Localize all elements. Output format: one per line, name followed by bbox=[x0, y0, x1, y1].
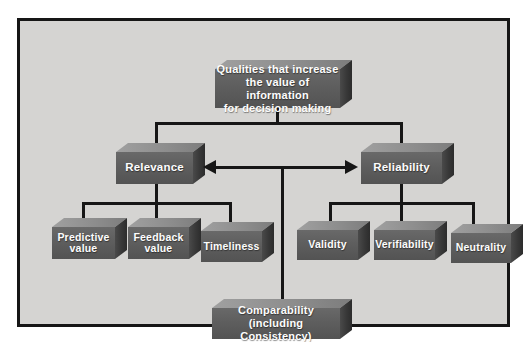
diagram-frame: Qualities that increase the value of inf… bbox=[17, 18, 510, 327]
node-root-label: Qualities that increase the value of inf… bbox=[215, 69, 340, 108]
box-top-face bbox=[374, 221, 447, 230]
node-comparability-label: Comparability (including Consistency) bbox=[212, 308, 340, 339]
box-top-face bbox=[128, 218, 201, 227]
box-top-face bbox=[201, 222, 274, 231]
box-top-face bbox=[116, 143, 205, 152]
box-top-face bbox=[451, 224, 523, 233]
page: Qualities that increase the value of inf… bbox=[0, 0, 525, 342]
node-feedback-value-label: Feedback value bbox=[128, 227, 189, 259]
box-top-face bbox=[52, 218, 127, 227]
connector-right-crossbar bbox=[329, 202, 475, 205]
node-verifiability: Verifiability bbox=[374, 230, 435, 260]
arrowhead-right-icon bbox=[345, 160, 358, 174]
relevance-reliability-arrow-shaft bbox=[214, 166, 347, 169]
node-reliability: Reliability bbox=[361, 152, 442, 184]
node-neutrality-label: Neutrality bbox=[451, 233, 511, 263]
node-feedback-value: Feedback value bbox=[128, 227, 189, 259]
connector-left-crossbar bbox=[82, 202, 232, 205]
node-validity: Validity bbox=[297, 230, 358, 260]
arrowhead-left-icon bbox=[203, 160, 216, 174]
box-top-face bbox=[361, 143, 454, 152]
node-relevance: Relevance bbox=[116, 152, 193, 184]
node-relevance-label: Relevance bbox=[116, 152, 193, 184]
node-predictive-value: Predictive value bbox=[52, 227, 115, 259]
connector-level2-crossbar bbox=[155, 122, 403, 125]
node-reliability-label: Reliability bbox=[361, 152, 442, 184]
box-top-face bbox=[297, 221, 370, 230]
node-comparability: Comparability (including Consistency) bbox=[212, 308, 340, 339]
node-predictive-value-label: Predictive value bbox=[52, 227, 115, 259]
node-timeliness-label: Timeliness bbox=[201, 231, 262, 262]
node-verifiability-label: Verifiability bbox=[374, 230, 435, 260]
node-neutrality: Neutrality bbox=[451, 233, 511, 263]
node-timeliness: Timeliness bbox=[201, 231, 262, 262]
node-root: Qualities that increase the value of inf… bbox=[215, 69, 340, 108]
node-validity-label: Validity bbox=[297, 230, 358, 260]
connector-comparability-stem bbox=[281, 167, 284, 301]
